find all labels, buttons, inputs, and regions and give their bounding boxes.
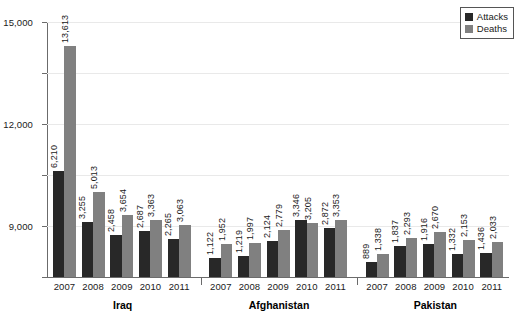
bar-value-label: 1,436 <box>477 227 486 250</box>
bar-attacks: 1,122 <box>209 258 220 277</box>
y-gridline <box>47 124 509 125</box>
bar-deaths: 1,952 <box>221 244 232 277</box>
x-axis-year-label: 2011 <box>475 281 509 292</box>
bar-value-label: 1,122 <box>206 232 215 255</box>
chart-legend: Attacks Deaths <box>460 7 514 39</box>
y-axis-tick-label: 15,000 <box>3 17 33 28</box>
legend-swatch-attacks-icon <box>465 13 473 21</box>
x-axis-group-label: Iraq <box>68 299 178 311</box>
legend-label-attacks: Attacks <box>477 11 508 23</box>
y-gridline <box>47 73 509 74</box>
bar-value-label: 1,219 <box>235 230 244 253</box>
bar-attacks: 2,872 <box>324 228 335 277</box>
plot-area: 03,0006,0009,00012,00015,0006,21013,6133… <box>47 22 509 277</box>
bar-attacks: 1,436 <box>480 253 491 277</box>
bar-attacks: 6,210 <box>53 171 64 277</box>
bar-attacks: 1,916 <box>423 244 434 277</box>
bar-value-label: 3,255 <box>78 196 87 219</box>
bar-deaths: 2,293 <box>406 238 417 277</box>
bar-attacks: 3,255 <box>82 222 93 277</box>
bar-value-label: 3,363 <box>147 194 156 217</box>
bar-deaths: 2,670 <box>434 232 445 277</box>
bar-value-label: 3,063 <box>176 199 185 222</box>
bar-attacks: 1,219 <box>238 256 249 277</box>
y-axis-tick: 15,000 <box>42 22 47 23</box>
legend-item-attacks: Attacks <box>465 11 508 23</box>
bar-deaths: 3,353 <box>335 220 346 277</box>
bar-value-label: 1,338 <box>374 228 383 251</box>
bar-value-label: 2,293 <box>403 212 412 235</box>
bar-value-label: 13,613 <box>61 14 70 42</box>
bar-value-label: 3,205 <box>304 196 313 219</box>
bar-deaths: 2,033 <box>492 242 503 277</box>
bar-value-label: 1,997 <box>246 217 255 240</box>
bar-attacks: 2,265 <box>168 239 179 278</box>
bar-value-label: 2,779 <box>275 204 284 227</box>
bar-value-label: 2,265 <box>164 212 173 235</box>
group-separator-tick <box>357 278 358 285</box>
bar-value-label: 2,872 <box>321 202 330 225</box>
bar-value-label: 2,033 <box>489 216 498 239</box>
bar-attacks: 1,837 <box>394 246 405 277</box>
bar-attacks: 2,687 <box>139 231 150 277</box>
y-axis-tick-label: 9,000 <box>9 221 33 232</box>
y-axis-tick: 9,000 <box>42 124 47 125</box>
bar-value-label: 1,952 <box>218 218 227 241</box>
bar-attacks: 2,124 <box>267 241 278 277</box>
bar-deaths: 3,654 <box>122 215 133 277</box>
bar-value-label: 6,210 <box>50 145 59 168</box>
bar-value-label: 2,153 <box>460 214 469 237</box>
y-axis-tick: 3,000 <box>42 226 47 227</box>
y-axis-tick-label: 12,000 <box>3 119 33 130</box>
x-axis-group-label: Pakistan <box>380 299 490 311</box>
legend-item-deaths: Deaths <box>465 23 508 35</box>
x-axis-line <box>47 277 509 278</box>
bar-deaths: 1,338 <box>377 254 388 277</box>
bar-deaths: 3,205 <box>307 223 318 277</box>
x-axis-group-label: Afghanistan <box>224 299 334 311</box>
group-separator-tick <box>201 278 202 285</box>
bar-chart: 03,0006,0009,00012,00015,0006,21013,6133… <box>0 0 522 324</box>
bar-value-label: 1,916 <box>420 218 429 241</box>
bar-deaths: 3,363 <box>150 220 161 277</box>
bar-value-label: 2,458 <box>107 209 116 232</box>
bar-value-label: 2,687 <box>136 205 145 228</box>
bar-deaths: 3,063 <box>179 225 190 277</box>
bar-value-label: 1,332 <box>448 228 457 251</box>
bar-deaths: 2,153 <box>463 240 474 277</box>
x-axis-year-label: 2011 <box>318 281 352 292</box>
bar-value-label: 3,654 <box>119 189 128 212</box>
legend-label-deaths: Deaths <box>477 23 507 35</box>
bar-value-label: 1,837 <box>391 220 400 243</box>
bar-deaths: 2,779 <box>278 230 289 277</box>
bar-attacks: 2,458 <box>110 235 121 277</box>
y-gridline <box>47 22 509 23</box>
bar-value-label: 889 <box>362 244 371 259</box>
bar-value-label: 3,346 <box>292 194 301 217</box>
bar-deaths: 5,013 <box>93 192 104 277</box>
bar-attacks: 3,346 <box>295 220 306 277</box>
bar-attacks: 889 <box>366 262 377 277</box>
y-gridline <box>47 175 509 176</box>
y-axis-tick: 6,000 <box>42 175 47 176</box>
legend-swatch-deaths-icon <box>465 25 473 33</box>
y-axis-tick: 12,000 <box>42 73 47 74</box>
y-axis-tick: 0 <box>42 277 47 278</box>
bar-value-label: 2,670 <box>431 206 440 229</box>
bar-value-label: 2,124 <box>263 215 272 238</box>
bar-value-label: 5,013 <box>90 166 99 189</box>
x-axis-year-label: 2011 <box>162 281 196 292</box>
bar-deaths: 1,997 <box>249 243 260 277</box>
bar-deaths: 13,613 <box>64 46 75 277</box>
bar-attacks: 1,332 <box>452 254 463 277</box>
bar-value-label: 3,353 <box>332 194 341 217</box>
